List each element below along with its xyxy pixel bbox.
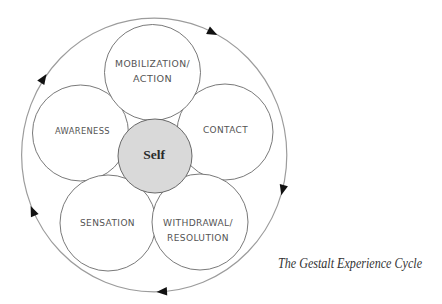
gestalt-cycle-diagram: AWARENESS CONTACT SENSATION WITHDRAWAL/ … <box>0 0 442 304</box>
stage-label-line2: ACTION <box>133 73 172 84</box>
stage-mobilization-action: MOBILIZATION/ ACTION <box>105 25 201 121</box>
center-self: Self <box>118 119 192 193</box>
stage-label-line1: WITHDRAWAL/ <box>163 217 233 228</box>
arrow-head-icon <box>277 184 288 196</box>
arrow-head-icon <box>206 27 219 39</box>
stage-label: CONTACT <box>203 124 248 135</box>
diagram-caption: The Gestalt Experience Cycle <box>278 255 422 271</box>
stage-label-line2: RESOLUTION <box>167 232 229 243</box>
stage-label: SENSATION <box>80 217 135 228</box>
self-label: Self <box>143 147 165 162</box>
stage-label-line1: MOBILIZATION/ <box>115 58 190 69</box>
arrow-head-icon <box>156 287 167 296</box>
arrow-head-icon <box>27 204 39 217</box>
stage-label: AWARENESS <box>55 125 110 136</box>
